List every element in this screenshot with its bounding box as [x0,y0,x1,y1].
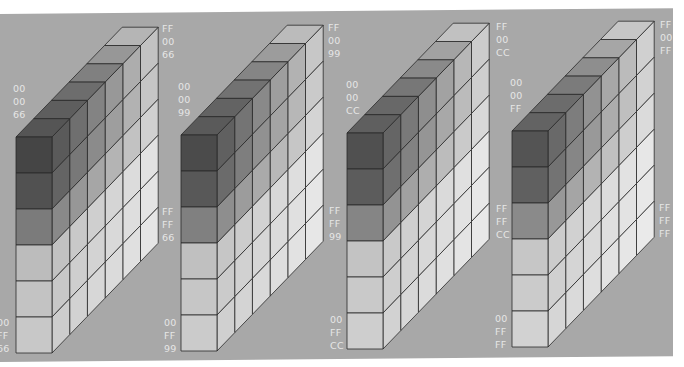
front-cell [512,239,548,275]
cube-66: 000066FF0066FFFF6600FF66 [0,23,175,354]
hex-label-top-right: FF00FF [660,19,673,56]
hex-label-top-right: FF0099 [328,22,341,59]
front-cell [181,171,217,207]
cube-cc: 0000CCFF00CCFFFFCC00FFCC [330,21,510,351]
front-cell [512,311,548,347]
front-cell [512,167,548,203]
hex-label-top-left: 000066 [13,83,26,120]
rgb-color-cube-diagram: 000066FF0066FFFF6600FF66000099FF0099FFFF… [0,0,684,367]
cube-ff: 0000FFFF00FFFFFFFF00FFFF [495,19,673,350]
hex-label-top-left: 000099 [178,81,191,118]
front-cell [16,209,52,245]
hex-label-top-left: 0000CC [346,79,360,116]
cube-99: 000099FF0099FFFF9900FF99 [164,22,342,354]
front-cell [181,315,217,351]
hex-label-top-right: FF0066 [162,23,175,60]
front-cell [181,207,217,243]
hex-label-mid-right: FFFF66 [162,206,175,243]
front-cell [16,245,52,281]
front-cell [347,313,383,349]
hex-label-bottom-left: 00FF99 [164,317,177,354]
front-cell [16,317,52,353]
front-cell [347,205,383,241]
front-cell [347,241,383,277]
front-cell [347,277,383,313]
front-cell [181,243,217,279]
hex-label-bottom-left: 00FF66 [0,317,10,354]
front-cell [16,173,52,209]
front-cell [347,169,383,205]
front-cell [512,203,548,239]
hex-label-bottom-left: 00FFCC [330,314,344,351]
hex-label-mid-right: FFFFFF [659,202,671,239]
front-cell [16,137,52,173]
front-cell [181,135,217,171]
front-cell [512,131,548,167]
hex-label-top-right: FF00CC [496,21,510,58]
front-cell [181,279,217,315]
front-cell [347,133,383,169]
cube-drawing: 000066FF0066FFFF6600FF66000099FF0099FFFF… [0,0,684,367]
front-cell [16,281,52,317]
hex-label-top-left: 0000FF [510,77,523,114]
hex-label-bottom-left: 00FFFF [495,313,508,350]
hex-label-mid-right: FFFF99 [329,205,342,242]
hex-label-mid-right: FFFFCC [496,203,510,240]
front-cell [512,275,548,311]
